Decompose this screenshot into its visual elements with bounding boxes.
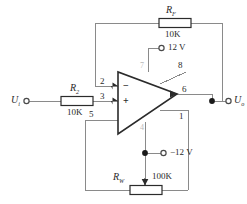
null-potentiometer-body	[130, 186, 162, 195]
input-resistor-body	[61, 97, 93, 106]
inverting-input-sign: −	[123, 81, 129, 91]
opamp-negative-supply-pin-label: 4	[140, 124, 144, 132]
feedback-resistor-value: 10K	[165, 30, 181, 39]
negative-supply-junction-dot	[142, 150, 148, 156]
opamp-positive-supply-pin-label: 7	[140, 62, 144, 70]
input-port-label: Ui	[11, 95, 20, 107]
wire-pin8-leader	[160, 72, 186, 84]
positive-supply-terminal-circle[interactable]	[159, 45, 164, 50]
output-junction-dot	[209, 98, 215, 104]
pin-label-offset-null-a: 5	[89, 110, 94, 119]
negative-supply-terminal-circle[interactable]	[161, 150, 166, 155]
pin-label-output: 6	[182, 85, 187, 94]
noninverting-input-sign: +	[123, 96, 129, 106]
input-resistor-label: R2	[70, 83, 79, 95]
pin-label-offset-null-b: 1	[179, 112, 184, 121]
pin-label-noninverting-input: 3	[100, 92, 105, 101]
output-terminal-circle[interactable]	[226, 98, 231, 103]
arrowhead-pin3	[111, 98, 118, 105]
circuit-diagram-canvas: RF 10K R2 10K RW 100K − + 7 4 2 3 5 8 6 …	[0, 0, 247, 204]
null-potentiometer-value: 100K	[152, 172, 172, 181]
positive-supply-label: 12 V	[168, 43, 186, 52]
null-potentiometer-label: RW	[113, 172, 124, 184]
potentiometer-wiper-arrow	[142, 179, 149, 186]
arrowhead-pin2	[111, 83, 118, 90]
feedback-resistor-label: RF	[166, 5, 176, 17]
pin-label-compensation: 8	[178, 61, 183, 70]
input-resistor-value: 10K	[67, 108, 83, 117]
feedback-resistor-body	[159, 19, 191, 28]
pin-label-inverting-input: 2	[100, 77, 105, 86]
output-port-label: Uo	[234, 95, 244, 107]
input-terminal-circle[interactable]	[24, 98, 29, 103]
negative-supply-label: −12 V	[170, 148, 193, 157]
